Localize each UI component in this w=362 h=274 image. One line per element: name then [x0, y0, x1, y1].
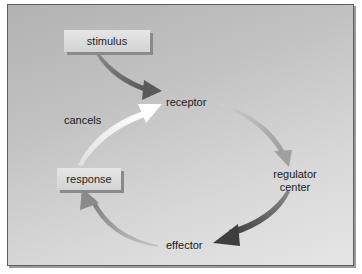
arrows-layer — [0, 0, 362, 274]
arrow-effector-to-response — [80, 188, 158, 247]
regulator-line2: center — [266, 181, 324, 194]
arrow-receptor-to-regulator — [220, 103, 292, 167]
effector-label: effector — [166, 239, 203, 252]
stimulus-box: stimulus — [64, 30, 150, 52]
regulator-center-label: regulator center — [266, 168, 324, 194]
response-box: response — [57, 168, 121, 190]
arrow-stimulus-to-receptor — [96, 52, 162, 100]
cancels-label: cancels — [64, 114, 101, 127]
arrow-regulator-to-effector — [213, 190, 290, 246]
response-label: response — [66, 173, 111, 185]
receptor-label: receptor — [166, 96, 206, 109]
stimulus-label: stimulus — [87, 35, 127, 47]
regulator-line1: regulator — [266, 168, 324, 181]
